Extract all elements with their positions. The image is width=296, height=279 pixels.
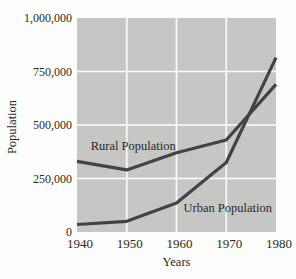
x-axis-title: Years [163,255,191,269]
y-axis-title: Population [5,99,19,154]
y-tick-label: 750,000 [33,65,72,79]
y-tick-label: 500,000 [33,118,72,132]
x-tick-label: 1950 [117,236,143,251]
population-chart: Rural PopulationUrban Population0250,000… [0,0,296,279]
rural-population-label: Rural Population [91,139,177,153]
x-tick-label: 1980 [266,236,292,251]
y-tick-label: 250,000 [33,172,72,186]
x-tick-label: 1960 [167,236,193,251]
urban-population-label: Urban Population [183,201,272,215]
chart-canvas: Rural PopulationUrban Population0250,000… [0,0,296,279]
x-tick-label: 1940 [67,236,93,251]
x-tick-label: 1970 [216,236,242,251]
y-tick-label: 1,000,000 [24,11,72,25]
